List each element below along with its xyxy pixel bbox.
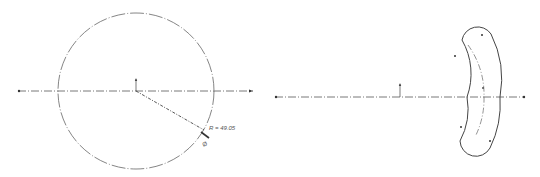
axis-arrow-icon [249,90,253,93]
center-arrow-icon [399,83,401,86]
slot-vertex [481,34,483,36]
slot-centerline[interactable] [468,45,484,135]
right-view [275,27,525,156]
radius-dimension-icon: Ø [201,132,209,148]
slot-vertex [460,126,462,128]
svg-text:Ø: Ø [201,140,208,147]
centerline-midpoint [482,87,484,89]
slot-vertex [454,55,456,57]
arc-slot-outline[interactable] [460,27,502,156]
center-arrow-icon [135,78,137,81]
axis-endpoint-right-start [275,96,277,98]
radius-dimension-label: R = 49.05 [209,125,235,131]
axis-endpoint-left-start [18,90,20,92]
slot-vertex [489,140,491,142]
axis-endpoint-right-end [523,96,525,98]
left-view: Ø [18,13,253,169]
drawing-canvas: Ø [0,0,540,177]
radius-leader-line[interactable] [136,91,204,130]
